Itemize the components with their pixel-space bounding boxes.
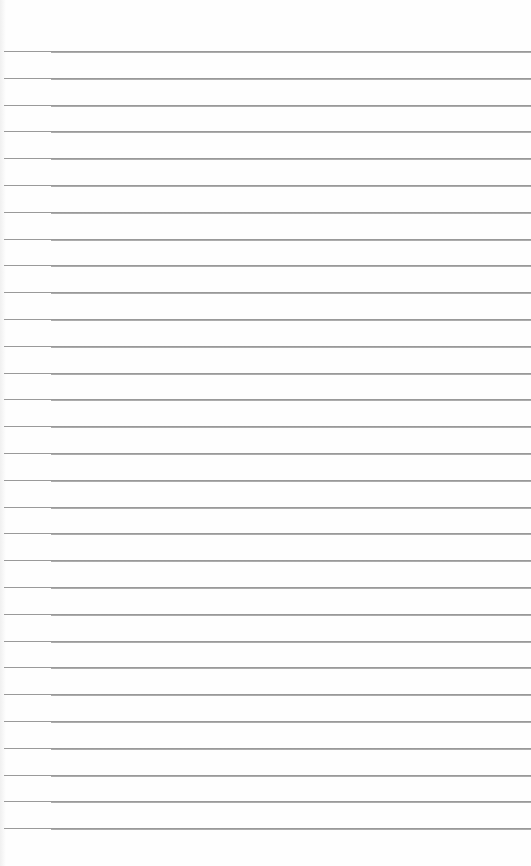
ruled-line-main-segment [51,560,531,562]
ruled-line [0,239,531,241]
ruled-line [0,480,531,482]
ruled-line-margin-segment [4,453,51,454]
ruled-line [0,319,531,321]
ruled-line-margin-segment [4,212,51,213]
ruled-line [0,131,531,133]
ruled-line [0,78,531,80]
ruled-line-main-segment [51,346,531,348]
ruled-line-margin-segment [4,641,51,642]
ruled-line [0,801,531,803]
ruled-line-main-segment [51,373,531,375]
ruled-line-margin-segment [4,131,51,132]
ruled-line-margin-segment [4,51,51,52]
ruled-line-main-segment [51,480,531,482]
ruled-line-main-segment [51,614,531,616]
ruled-line [0,292,531,294]
ruled-line-margin-segment [4,587,51,588]
ruled-line-margin-segment [4,158,51,159]
ruled-line-main-segment [51,212,531,214]
ruled-line-main-segment [51,507,531,509]
ruled-line-main-segment [51,828,531,830]
ruled-line-main-segment [51,399,531,401]
ruled-line-main-segment [51,131,531,133]
ruled-line-main-segment [51,292,531,294]
ruled-line-margin-segment [4,426,51,427]
page-edge-shadow [0,0,6,866]
ruled-line-main-segment [51,694,531,696]
ruled-line [0,105,531,107]
ruled-line [0,775,531,777]
ruled-line [0,265,531,267]
ruled-line-margin-segment [4,78,51,79]
ruled-line [0,560,531,562]
ruled-line [0,453,531,455]
ruled-line [0,373,531,375]
ruled-line-margin-segment [4,560,51,561]
ruled-line-main-segment [51,775,531,777]
ruled-line-main-segment [51,319,531,321]
ruled-line [0,667,531,669]
ruled-line-main-segment [51,801,531,803]
ruled-line [0,399,531,401]
ruled-line [0,158,531,160]
ruled-line-margin-segment [4,801,51,802]
ruled-line [0,587,531,589]
ruled-line-margin-segment [4,507,51,508]
ruled-line-margin-segment [4,721,51,722]
ruled-line-margin-segment [4,319,51,320]
ruled-line-main-segment [51,265,531,267]
ruled-line [0,212,531,214]
ruled-line-main-segment [51,185,531,187]
ruled-line [0,614,531,616]
ruled-line-main-segment [51,239,531,241]
ruled-line-margin-segment [4,614,51,615]
ruled-line [0,346,531,348]
ruled-line [0,51,531,53]
ruled-line-main-segment [51,533,531,535]
ruled-line-margin-segment [4,828,51,829]
ruled-line-margin-segment [4,239,51,240]
ruled-line-main-segment [51,105,531,107]
ruled-line [0,721,531,723]
ruled-line-margin-segment [4,373,51,374]
ruled-line-main-segment [51,587,531,589]
ruled-line [0,533,531,535]
ruled-line-margin-segment [4,667,51,668]
ruled-line-margin-segment [4,185,51,186]
ruled-line-margin-segment [4,480,51,481]
ruled-line-main-segment [51,748,531,750]
ruled-line-margin-segment [4,105,51,106]
ruled-line [0,748,531,750]
ruled-line [0,641,531,643]
ruled-line-main-segment [51,641,531,643]
ruled-line-margin-segment [4,694,51,695]
ruled-line-margin-segment [4,533,51,534]
ruled-line [0,426,531,428]
ruled-line-margin-segment [4,346,51,347]
ruled-line-margin-segment [4,748,51,749]
lined-paper-sheet [0,0,531,866]
ruled-line-margin-segment [4,775,51,776]
ruled-line-margin-segment [4,399,51,400]
ruled-line-margin-segment [4,265,51,266]
ruled-line-main-segment [51,51,531,53]
ruled-line [0,694,531,696]
ruled-line-main-segment [51,426,531,428]
ruled-line-margin-segment [4,292,51,293]
ruled-line [0,507,531,509]
ruled-line [0,185,531,187]
ruled-line-main-segment [51,78,531,80]
ruled-line-main-segment [51,158,531,160]
ruled-line-main-segment [51,453,531,455]
ruled-line-main-segment [51,667,531,669]
ruled-line-main-segment [51,721,531,723]
ruled-line [0,828,531,830]
